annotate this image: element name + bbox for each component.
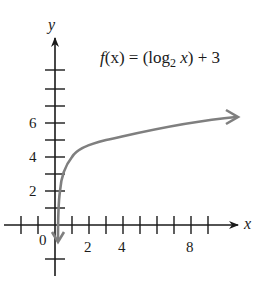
- x-tick-label-8: 8: [186, 239, 194, 255]
- x-tick-label-4: 4: [118, 239, 126, 255]
- y-tick-label-4: 4: [29, 149, 37, 165]
- function-curve: [58, 117, 236, 240]
- x-axis-label: x: [243, 215, 251, 232]
- function-equation: f(x) = (log2 x) + 3: [100, 48, 220, 70]
- y-tick-label-6: 6: [29, 115, 37, 131]
- origin-label: 0: [39, 232, 47, 248]
- log-function-graph: 2 4 8 0 2 4 6 x y f(x) = (log2 x) + 3: [0, 0, 271, 282]
- y-tick-label-2: 2: [29, 183, 37, 199]
- x-tick-label-2: 2: [84, 239, 92, 255]
- y-axis-label: y: [46, 16, 56, 34]
